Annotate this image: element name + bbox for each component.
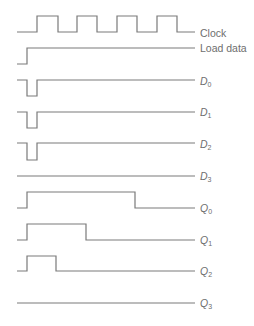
- q1-letter: Q: [200, 234, 208, 246]
- q0-subscript: 0: [208, 208, 212, 215]
- d2-letter: D: [200, 138, 208, 150]
- clock-waveform: [17, 16, 195, 32]
- q3-letter: Q: [200, 297, 208, 309]
- load-data-label: Load data: [200, 43, 247, 54]
- d3-subscript: 3: [208, 176, 212, 183]
- q3-label: Q3: [200, 298, 212, 310]
- d1-letter: D: [200, 106, 208, 118]
- q1-label: Q1: [200, 235, 212, 247]
- d2-waveform: [17, 143, 195, 160]
- q3-subscript: 3: [208, 303, 212, 310]
- d2-label: D2: [200, 139, 212, 151]
- q2-label: Q2: [200, 266, 212, 278]
- q2-letter: Q: [200, 265, 208, 277]
- d1-subscript: 1: [208, 112, 212, 119]
- q0-label: Q0: [200, 203, 212, 215]
- q0-letter: Q: [200, 202, 208, 214]
- d1-waveform: [17, 112, 195, 128]
- d0-label: D0: [200, 76, 212, 88]
- q0-waveform: [17, 192, 195, 208]
- q1-subscript: 1: [208, 240, 212, 247]
- d2-subscript: 2: [208, 144, 212, 151]
- q2-waveform: [17, 256, 195, 271]
- d0-subscript: 0: [208, 81, 212, 88]
- d3-letter: D: [200, 170, 208, 182]
- d0-waveform: [17, 80, 195, 96]
- q1-waveform: [17, 224, 195, 240]
- d0-letter: D: [200, 75, 208, 87]
- q2-subscript: 2: [208, 271, 212, 278]
- clock-label: Clock: [200, 28, 226, 39]
- d3-label: D3: [200, 171, 212, 183]
- d1-label: D1: [200, 107, 212, 119]
- load-data-waveform: [17, 48, 195, 64]
